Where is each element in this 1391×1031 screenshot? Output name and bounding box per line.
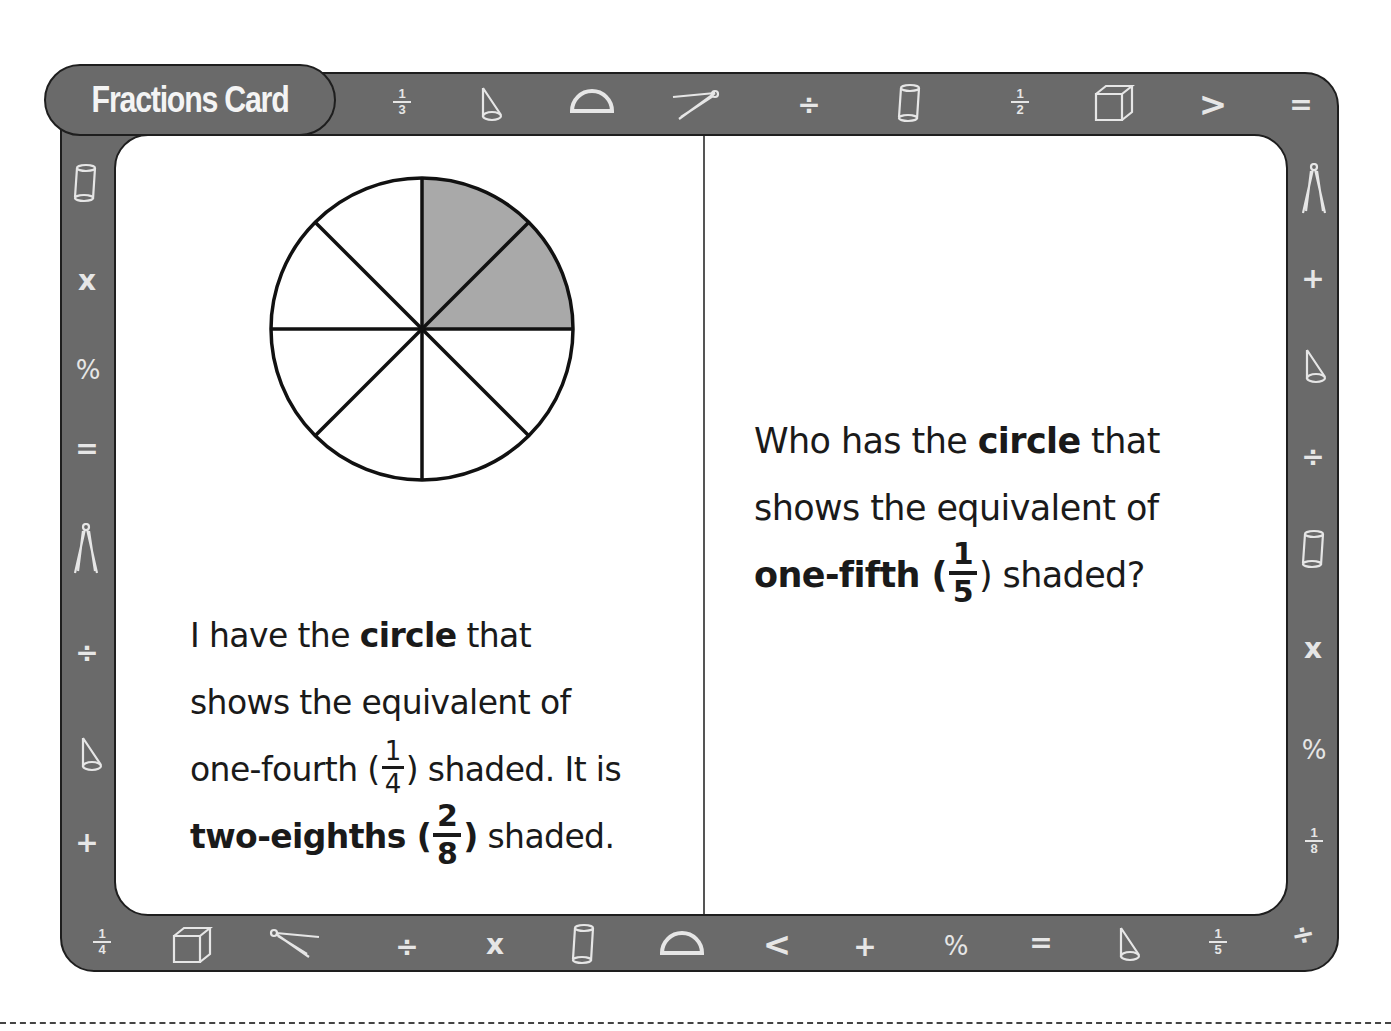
greater-than-icon: > xyxy=(1196,84,1230,124)
compass-icon xyxy=(1298,162,1330,218)
divide-icon: ÷ xyxy=(390,926,424,966)
equals-icon: = xyxy=(72,430,102,466)
fraction-circle-diagram xyxy=(268,172,576,492)
statement-line-4: two-eighths (28) shaded. xyxy=(190,803,690,873)
cube-icon xyxy=(170,924,214,966)
fraction-one-fourth: 14 xyxy=(382,738,404,797)
equals-icon: = xyxy=(1026,924,1056,960)
cylinder-icon xyxy=(70,162,100,204)
card-title: Fractions Card xyxy=(92,79,289,121)
compass-icon xyxy=(70,522,102,578)
fraction-one-eighth-icon: 18 xyxy=(1304,824,1324,858)
divide-icon: ÷ xyxy=(70,632,104,672)
cone-icon xyxy=(476,84,506,124)
cylinder-icon xyxy=(1298,528,1328,570)
fraction-one-fourth-icon: 14 xyxy=(92,926,112,958)
statement-line-3: one-fourth (14) shaded. It is xyxy=(190,736,690,803)
cylinder-icon xyxy=(568,922,598,966)
divide-icon: ÷ xyxy=(1296,436,1330,476)
compass-icon xyxy=(268,926,324,960)
plus-icon: + xyxy=(848,926,882,966)
question-line-3: one-fifth (15) shaded? xyxy=(754,542,1274,611)
fraction-two-eighths: 28 xyxy=(433,801,461,869)
fraction-one-fifth: 15 xyxy=(949,539,977,607)
cone-icon xyxy=(1114,924,1144,964)
answer-statement: I have the circle that shows the equival… xyxy=(190,602,690,873)
question-line-2: shows the equivalent of xyxy=(754,475,1274,542)
multiply-icon: x xyxy=(70,260,104,300)
multiply-icon: x xyxy=(1296,628,1330,668)
card-title-tab: Fractions Card xyxy=(44,64,336,136)
question-statement: Who has the circle that shows the equiva… xyxy=(754,408,1274,611)
fraction-one-fifth-icon: 15 xyxy=(1208,926,1228,958)
protractor-icon xyxy=(658,928,706,958)
plus-icon: + xyxy=(70,822,104,862)
divide-icon: ÷ xyxy=(792,84,826,124)
multiply-icon: x xyxy=(478,924,512,964)
percent-icon: % xyxy=(68,350,108,390)
protractor-icon xyxy=(568,86,616,116)
plus-icon: + xyxy=(1296,258,1330,298)
statement-line-1: I have the circle that xyxy=(190,602,690,669)
statement-line-2: shows the equivalent of xyxy=(190,669,690,736)
cube-icon xyxy=(1092,82,1136,124)
fraction-one-half-icon: 12 xyxy=(1010,86,1030,118)
compass-icon xyxy=(668,88,724,122)
percent-icon: % xyxy=(1294,730,1334,770)
cut-line xyxy=(0,1022,1391,1024)
card-body: I have the circle that shows the equival… xyxy=(114,134,1288,916)
fraction-one-third-icon: 13 xyxy=(392,86,412,118)
cone-icon xyxy=(1300,346,1330,386)
cylinder-icon xyxy=(894,82,924,124)
percent-icon: % xyxy=(936,926,976,966)
equals-icon: = xyxy=(1286,86,1316,122)
cone-icon xyxy=(76,734,106,774)
panel-divider xyxy=(703,136,705,914)
less-than-icon: < xyxy=(760,924,794,964)
question-line-1: Who has the circle that xyxy=(754,408,1274,475)
